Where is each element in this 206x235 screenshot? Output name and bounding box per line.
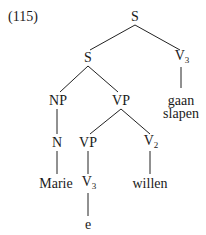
leaf-willen: willen <box>133 177 168 191</box>
node-subscript: 2 <box>154 140 159 150</box>
node-s-inner: S <box>84 51 92 65</box>
node-v3-low: V3 <box>82 175 97 193</box>
node-subscript: 3 <box>92 181 97 191</box>
node-v2: V2 <box>144 134 159 152</box>
node-v3-top: V3 <box>175 49 190 67</box>
node-label: V <box>175 48 185 63</box>
leaf-marie: Marie <box>39 177 72 191</box>
leaf-e: e <box>85 218 91 232</box>
leaf-slapen: slapen <box>163 107 199 121</box>
node-s-root: S <box>131 10 139 24</box>
node-n: N <box>52 136 62 150</box>
node-vp-lower: VP <box>79 136 97 150</box>
node-np: NP <box>49 94 67 108</box>
node-label: V <box>144 133 154 148</box>
node-subscript: 3 <box>185 55 190 65</box>
node-vp-upper: VP <box>112 94 130 108</box>
node-label: V <box>82 174 92 189</box>
